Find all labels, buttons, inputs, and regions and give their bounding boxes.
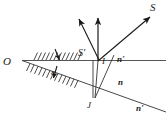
optics-figure: O S S' I J n' n n' ε — [0, 0, 167, 131]
label-origin: O — [3, 56, 11, 67]
label-index-middle: n — [118, 78, 123, 87]
label-ray-s: S — [150, 2, 156, 13]
label-point-j: J — [87, 101, 91, 110]
label-angle-epsilon: ε — [51, 68, 55, 77]
label-point-i: I — [102, 57, 105, 66]
angle-tick-icon — [55, 49, 60, 60]
label-index-upper: n' — [117, 55, 125, 64]
label-index-lower: n' — [136, 104, 144, 113]
slanted-interface-line — [22, 61, 166, 113]
label-ray-s-prime: S' — [78, 48, 85, 58]
